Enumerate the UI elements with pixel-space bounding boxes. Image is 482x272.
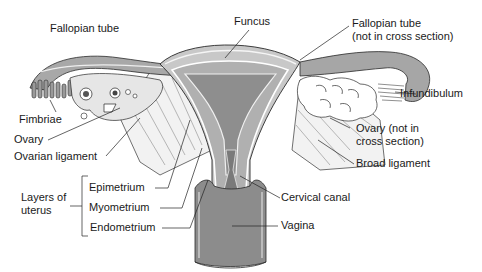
label-cervical-canal: Cervical canal [281, 191, 350, 204]
label-ovary-left: Ovary [14, 133, 43, 146]
label-ovary-right: Ovary (not in cross section) [356, 122, 424, 148]
fimbriae-shape [32, 80, 72, 98]
label-endometrium: Endometrium [90, 221, 155, 234]
label-ovarian-ligament: Ovarian ligament [14, 150, 97, 163]
label-layers-of-uterus: Layers of uterus [21, 191, 66, 217]
label-fallopian-tube-right: Fallopian tube (not in cross section) [352, 17, 453, 43]
label-myometrium: Myometrium [89, 201, 150, 214]
label-fundus: Funcus [234, 15, 270, 28]
label-fallopian-tube-left: Fallopian tube [50, 22, 119, 35]
label-broad-ligament: Broad ligament [356, 157, 430, 170]
label-infundibulum: Infundibulum [400, 87, 463, 100]
vagina-shape [195, 180, 266, 266]
label-epimetrium: Epimetrium [89, 181, 145, 194]
label-vagina: Vagina [281, 219, 314, 232]
label-fimbriae: Fimbriae [19, 113, 62, 126]
uterus-anatomy-diagram: Fallopian tube Funcus Fallopian tube (no… [0, 0, 482, 272]
